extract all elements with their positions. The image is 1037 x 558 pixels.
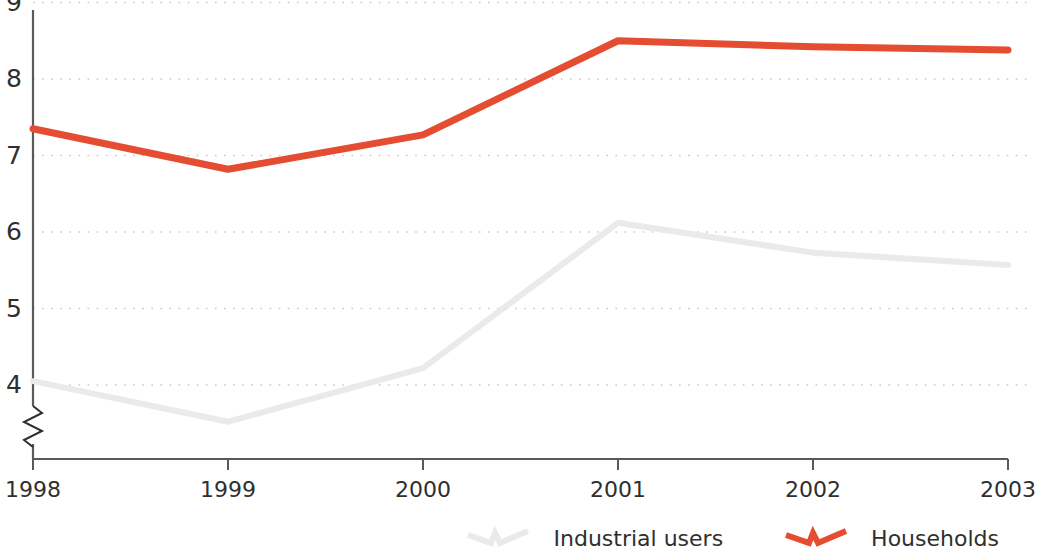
legend-label-households: Households [871, 528, 999, 550]
zigzag-line-marker-icon [783, 526, 849, 552]
chart-plot-area [0, 0, 1037, 558]
series-line-households [33, 41, 1008, 170]
series-line-industrial-users [33, 223, 1008, 422]
x-axis-tick-label: 1998 [0, 479, 78, 501]
line-chart: 987654 199819992000200120022003 Industri… [0, 0, 1037, 558]
legend-item-households[interactable]: Households [783, 526, 999, 552]
y-axis-tick-label: 6 [0, 219, 22, 244]
data-series-group [33, 41, 1008, 422]
y-axis-tick-label: 9 [0, 0, 22, 15]
x-axis-tick-label: 2002 [768, 479, 858, 501]
y-axis-tick-label: 8 [0, 66, 22, 91]
y-axis-tick-label: 7 [0, 143, 22, 168]
zigzag-line-marker-icon [465, 526, 531, 552]
x-axis-tick-label: 2000 [378, 479, 468, 501]
x-axis-tick-label: 2001 [573, 479, 663, 501]
axis-break-zigzag [24, 406, 42, 447]
x-axis-tick-label: 1999 [183, 479, 273, 501]
y-axis-tick-label: 5 [0, 296, 22, 321]
legend-item-industrial-users[interactable]: Industrial users [465, 526, 723, 552]
gridlines [33, 3, 1030, 386]
y-axis-tick-label: 4 [0, 372, 22, 397]
chart-legend: Industrial users Households [0, 520, 1037, 558]
legend-label-industrial-users: Industrial users [553, 528, 723, 550]
x-axis-ticks [33, 459, 1008, 470]
x-axis-tick-label: 2003 [963, 479, 1037, 501]
